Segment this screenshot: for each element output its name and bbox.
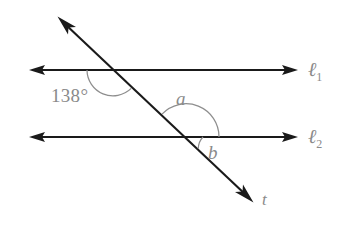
angle-arc-138 bbox=[87, 70, 131, 96]
line-l1 bbox=[29, 65, 298, 75]
angle-arc-a bbox=[162, 104, 219, 137]
geometry-figure: 138° a b t ℓ1 ℓ2 bbox=[0, 0, 347, 225]
angle-label-b: b bbox=[208, 143, 218, 162]
geometry-canvas bbox=[0, 0, 347, 225]
line-label-l2-subscript: 2 bbox=[316, 137, 322, 151]
line-l2 bbox=[29, 132, 298, 142]
angle-arc-b bbox=[198, 137, 203, 149]
line-t-transversal bbox=[58, 17, 254, 203]
line-label-t: t bbox=[262, 191, 267, 208]
angle-label-a: a bbox=[176, 89, 186, 108]
line-t-segment bbox=[65, 24, 246, 195]
line-label-l1-subscript: 1 bbox=[316, 70, 322, 84]
line-label-l1: ℓ1 bbox=[308, 58, 322, 85]
angle-label-138: 138° bbox=[51, 86, 88, 105]
line-label-l2: ℓ2 bbox=[308, 125, 322, 152]
